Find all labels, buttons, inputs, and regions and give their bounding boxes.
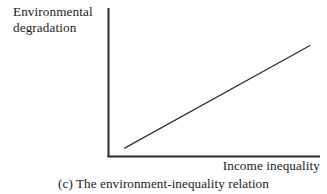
figure-caption: (c) The environment-inequality relation bbox=[0, 176, 327, 191]
x-axis-label: Income inequality bbox=[160, 158, 320, 173]
relation-line bbox=[125, 46, 310, 149]
figure-environment-inequality: Environmental degradation Income inequal… bbox=[0, 0, 327, 194]
